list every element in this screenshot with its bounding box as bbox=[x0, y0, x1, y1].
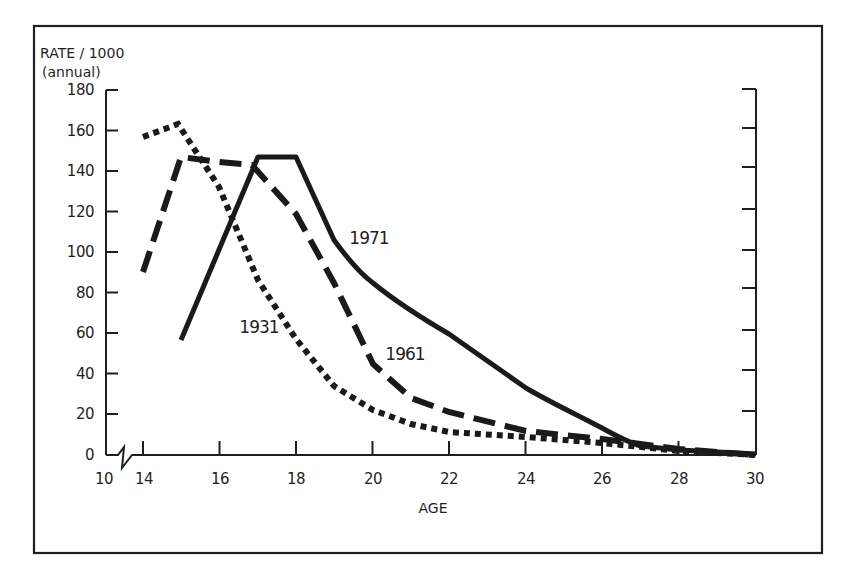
x-tick-18: 18 bbox=[287, 470, 305, 488]
series-1961-line bbox=[143, 157, 756, 455]
x-tick-28: 28 bbox=[670, 470, 688, 488]
right-axis bbox=[742, 89, 756, 455]
rate-by-age-chart: RATE / 1000 (annual) 0 20 40 60 80 100 1… bbox=[0, 0, 852, 565]
y-tick-100: 100 bbox=[67, 243, 94, 261]
series-1931-line bbox=[143, 124, 756, 455]
series-label-1961: 1961 bbox=[385, 344, 424, 364]
y-tick-180: 180 bbox=[67, 81, 94, 99]
y-axis-title: RATE / 1000 bbox=[40, 45, 124, 61]
y-tick-0: 0 bbox=[85, 446, 94, 464]
series-label-1971: 1971 bbox=[349, 228, 388, 248]
y-tick-60: 60 bbox=[76, 324, 94, 342]
left-axis bbox=[106, 90, 118, 455]
y-tick-120: 120 bbox=[67, 203, 94, 221]
y-tick-20: 20 bbox=[76, 405, 94, 423]
y-tick-140: 140 bbox=[67, 162, 94, 180]
y-tick-labels: 0 20 40 60 80 100 120 140 160 180 bbox=[67, 81, 94, 464]
x-tick-24: 24 bbox=[517, 470, 535, 488]
x-tick-14: 14 bbox=[135, 470, 153, 488]
x-tick-26: 26 bbox=[593, 470, 611, 488]
x-tick-labels: 10 14 16 18 20 22 24 26 28 30 bbox=[95, 470, 764, 488]
x-tick-22: 22 bbox=[440, 470, 458, 488]
y-tick-40: 40 bbox=[76, 365, 94, 383]
x-tick-30: 30 bbox=[746, 470, 764, 488]
x-tick-20: 20 bbox=[364, 470, 382, 488]
bottom-axis bbox=[106, 441, 756, 468]
y-axis-subtitle: (annual) bbox=[42, 64, 101, 80]
series-label-1931: 1931 bbox=[239, 317, 278, 337]
y-tick-160: 160 bbox=[67, 122, 94, 140]
x-tick-10: 10 bbox=[95, 470, 113, 488]
series-1971-line bbox=[181, 157, 756, 454]
x-axis-title: AGE bbox=[418, 500, 447, 516]
x-tick-16: 16 bbox=[211, 470, 229, 488]
y-tick-80: 80 bbox=[76, 284, 94, 302]
